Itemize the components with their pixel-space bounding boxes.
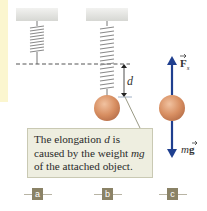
callout-var-mg: mg (131, 147, 145, 159)
panel-b (86, 8, 140, 128)
ball-c (159, 95, 185, 121)
panel-tag-c: c (167, 188, 178, 200)
ball-b (94, 95, 120, 121)
callout-line-3: of the attached object. (34, 160, 146, 174)
dimension-d-label: d (127, 74, 133, 89)
spring-a-icon (30, 26, 44, 52)
spring-force-label: Fs (180, 57, 189, 72)
callout-line-1: The elongation d is (34, 133, 146, 147)
ceiling-b (86, 8, 128, 21)
callout-box: The elongation d is caused by the weight… (27, 128, 153, 178)
ceiling-a (16, 8, 58, 21)
callout-text: The elongation (34, 133, 104, 145)
spring-force-symbol: F (180, 57, 187, 69)
spring-b-icon (100, 27, 114, 89)
weight-label: mg (181, 143, 194, 155)
weight-mass-symbol: m (181, 143, 189, 155)
spring-diagram (0, 0, 207, 211)
arrow-down-icon (167, 149, 177, 158)
spring-force-subscript: s (187, 64, 190, 72)
weight-g-symbol: g (189, 143, 195, 155)
callout-pointer (125, 97, 140, 128)
callout-text: caused by the weight (34, 147, 131, 159)
callout-line-2: caused by the weight mg (34, 147, 146, 161)
arrow-up-icon (167, 56, 177, 65)
panel-tag-a: a (32, 188, 43, 200)
panel-tag-b: b (102, 188, 113, 200)
callout-text: is (110, 133, 120, 145)
panel-a (16, 8, 58, 64)
